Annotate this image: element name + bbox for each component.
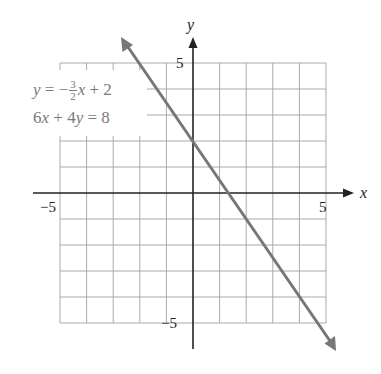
- x-tick-min: −5: [40, 199, 56, 215]
- eq2-mid: + 4: [49, 108, 76, 127]
- y-tick-min: −5: [161, 315, 177, 331]
- x-tick-max: 5: [319, 199, 327, 215]
- eq2-rest: = 8: [83, 108, 110, 127]
- eq1-rest: + 2: [85, 80, 112, 99]
- fraction-three-halves: 32: [69, 79, 77, 102]
- coordinate-plane: x y −5 5 5 −5: [0, 0, 381, 374]
- eq1-lhs: y: [33, 80, 41, 99]
- fraction-denominator: 2: [69, 91, 77, 102]
- y-tick-max: 5: [176, 55, 184, 71]
- x-axis-label: x: [359, 184, 367, 201]
- line-arrow-bottom-icon: [325, 336, 337, 351]
- eq2-var-x: x: [42, 108, 50, 127]
- eq1-equals: = −: [41, 80, 69, 99]
- eq2-coef: 6: [33, 108, 42, 127]
- equation-standard-form: 6x + 4y = 8: [33, 109, 110, 126]
- plotted-line: [121, 37, 336, 351]
- y-axis-arrow-icon: [189, 37, 198, 48]
- x-axis-arrow-icon: [343, 189, 354, 198]
- y-axis-label: y: [185, 16, 195, 34]
- equation-slope-intercept: y = −32x + 2: [33, 80, 112, 103]
